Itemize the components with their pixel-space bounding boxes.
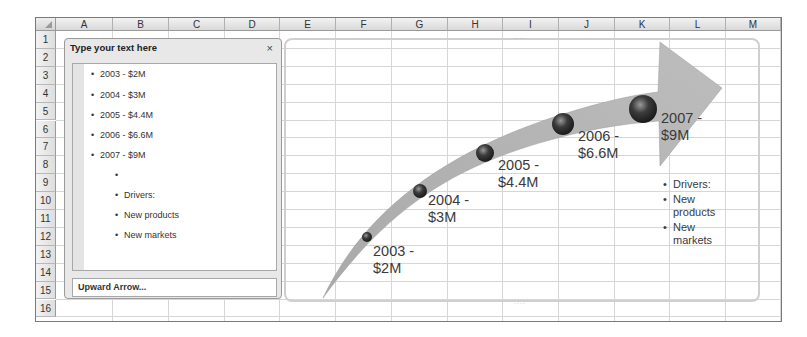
text-pane-title: Type your text here [70,42,157,53]
text-pane-editor[interactable]: 2003 - $2M 2004 - $3M 2005 - $4.4M 2006 … [72,63,277,271]
milestone-label-2006: 2006 -$6.6M [578,128,619,162]
text-pane-item[interactable]: New products [124,210,179,220]
milestone-label-2005: 2005 -$4.4M [498,157,539,191]
text-pane-item[interactable]: 2004 - $3M [100,90,146,100]
text-pane-item[interactable]: 2003 - $2M [100,69,146,79]
close-icon[interactable]: × [267,42,273,54]
layout-name-link[interactable]: Upward Arrow... [72,278,277,297]
text-pane-item[interactable]: 2005 - $4.4M [100,110,153,120]
text-pane-item[interactable]: Drivers: [124,190,155,200]
milestone-label-2004: 2004 -$3M [428,192,469,226]
driver-item: Drivers: [663,178,725,191]
driver-item: New markets [663,221,725,247]
drivers-list: Drivers: New products New markets [663,178,725,249]
driver-item: New products [663,193,725,219]
smartart-text-pane[interactable]: Type your text here × 2003 - $2M 2004 - … [64,38,282,299]
milestone-label-2003: 2003 -$2M [373,243,414,277]
text-pane-item[interactable]: New markets [124,230,177,240]
milestone-label-2007: 2007 -$9M [661,110,702,144]
text-pane-item[interactable]: 2006 - $6.6M [100,130,153,140]
text-pane-item[interactable]: 2007 - $9M [100,150,146,160]
